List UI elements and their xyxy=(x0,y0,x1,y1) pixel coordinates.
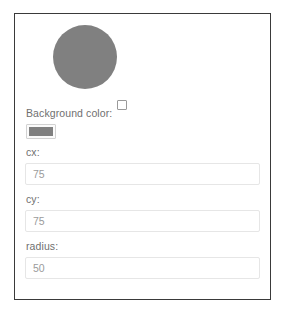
cy-label: cy: xyxy=(26,193,260,206)
shape-preview-area xyxy=(25,23,260,107)
panel-content: Background color: cx: cy: radius: xyxy=(15,14,270,299)
shape-editor-panel: Background color: cx: cy: radius: xyxy=(14,13,271,300)
background-color-picker[interactable] xyxy=(26,124,56,139)
cx-label: cx: xyxy=(26,146,260,159)
preview-circle-shape xyxy=(53,25,117,89)
color-swatch-fill xyxy=(29,127,53,136)
cy-input[interactable] xyxy=(25,210,260,232)
preview-toggle-checkbox[interactable] xyxy=(117,100,127,110)
radius-input[interactable] xyxy=(25,257,260,279)
circle-preview xyxy=(52,23,118,91)
cx-input[interactable] xyxy=(25,163,260,185)
radius-label: radius: xyxy=(26,240,260,253)
background-color-label: Background color: xyxy=(26,107,260,120)
